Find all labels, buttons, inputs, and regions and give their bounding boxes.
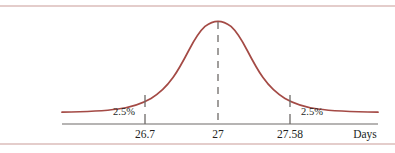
normal-distribution-figure: 2.5% 2.5% 26.7 27 27.58 Days [0, 0, 395, 153]
x-axis-title: Days [353, 129, 377, 141]
x-tick-label-lower-critical: 26.7 [135, 129, 155, 141]
annotation-right-tail-percent: 2.5% [301, 107, 323, 118]
distribution-chart-canvas [0, 0, 395, 153]
x-tick-label-upper-critical: 27.58 [277, 129, 303, 141]
x-tick-label-mean: 27 [212, 129, 224, 141]
annotation-left-tail-percent: 2.5% [113, 107, 135, 118]
normal-curve-path [62, 21, 378, 112]
